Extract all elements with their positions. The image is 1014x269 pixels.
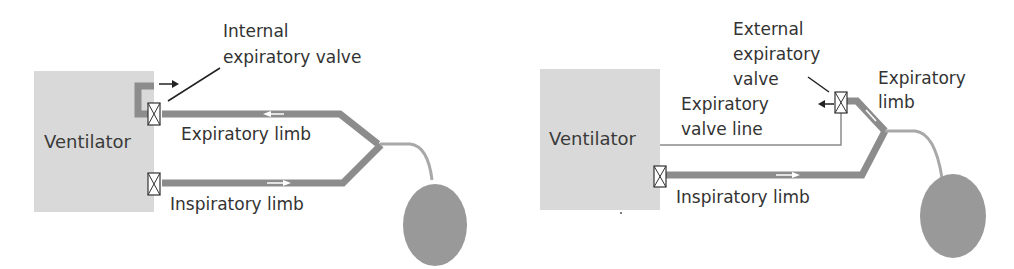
patient-tube xyxy=(885,131,942,178)
exhaust-arrowhead-icon xyxy=(172,80,179,88)
internal-valve-label-2: expiratory valve xyxy=(223,47,361,67)
ventilator-label: Ventilator xyxy=(44,131,132,152)
left-diagram: Ventilator Internal exp xyxy=(34,21,467,266)
lung-icon xyxy=(920,174,986,258)
expiratory-limb-label-2: limb xyxy=(878,92,915,112)
external-expiratory-valve-icon xyxy=(835,92,847,113)
internal-valve-label-1: Internal xyxy=(223,21,289,41)
lung-icon xyxy=(403,184,467,266)
inspiratory-valve-icon xyxy=(654,166,666,187)
expiratory-limb-label: Expiratory limb xyxy=(181,124,311,144)
stray-dot xyxy=(620,212,622,214)
internal-expiratory-valve-icon xyxy=(148,103,160,125)
inspiratory-limb-label: Inspiratory limb xyxy=(676,187,810,207)
patient-tube xyxy=(380,144,432,180)
valve-leader-line xyxy=(808,77,829,92)
right-diagram: Ventilator External ex xyxy=(540,19,986,258)
exhaust-arrowhead-icon xyxy=(818,100,825,108)
inspiratory-limb-tube xyxy=(162,145,381,183)
external-valve-label-1: External xyxy=(733,19,804,39)
external-valve-label-2: expiratory xyxy=(733,44,820,64)
external-valve-label-3: valve xyxy=(733,69,779,89)
inspiratory-limb-label: Inspiratory limb xyxy=(170,194,304,214)
valve-line-label-1: Expiratory xyxy=(681,94,769,114)
ventilator-label: Ventilator xyxy=(549,128,637,149)
expiratory-limb-label-1: Expiratory xyxy=(878,68,966,88)
valve-line-label-2: valve line xyxy=(681,119,763,139)
inspiratory-valve-icon xyxy=(148,173,160,195)
